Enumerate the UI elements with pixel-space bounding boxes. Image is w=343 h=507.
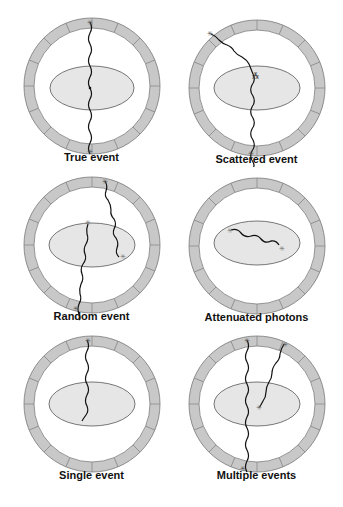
- detection-spark-icon: ✳: [102, 178, 108, 185]
- annihilation-point: [89, 87, 92, 90]
- annihilation-spark-icon: ✳: [120, 253, 126, 260]
- detector-ring-diagram: ✳: [6, 318, 177, 483]
- detector-ring-diagram: ⁂ ✳ ✳: [171, 2, 342, 167]
- truncated-caption: [10, 494, 333, 502]
- panel-scattered-event: ⁂ ✳ ✳ Scattered event: [171, 2, 342, 167]
- panel-random-event: ✳ ✳ ✳ ✳ Random event: [6, 159, 177, 324]
- annihilation-spark-icon: ✳: [85, 219, 91, 226]
- detection-spark-icon: ✳: [85, 337, 91, 344]
- panel-multiple-events: ✳ ✳ ✳ ✳ Multiple events: [171, 318, 342, 483]
- absorption-spark-icon: ✳: [227, 227, 233, 234]
- panel-true-event: ✳ ✳ True event: [6, 0, 177, 165]
- scatter-point-icon: ⁂: [252, 72, 259, 79]
- patient-object: [49, 382, 135, 426]
- patient-object: [49, 223, 135, 267]
- detection-spark-icon: ✳: [244, 337, 250, 344]
- absorption-spark-icon: ✳: [279, 245, 285, 252]
- detection-spark-icon: ✳: [87, 19, 93, 26]
- panel-single-event: ✳ Single event: [6, 318, 177, 483]
- panel-label: Single event: [6, 469, 177, 481]
- detector-ring-diagram: ✳ ✳ ✳ ✳: [6, 159, 177, 324]
- detector-ring-diagram: ✳ ✳: [6, 0, 177, 165]
- panel-attenuated-photons: ✳ ✳ Attenuated photons: [171, 160, 342, 325]
- detection-spark-icon: ✳: [282, 341, 288, 348]
- annihilation-spark-icon: ✳: [256, 404, 262, 411]
- pet-coincidence-events-figure: ✳ ✳ True event: [0, 0, 343, 507]
- detector-ring-diagram: ✳ ✳: [171, 160, 342, 325]
- panel-label: Multiple events: [171, 469, 342, 481]
- detector-ring-diagram: ✳ ✳ ✳ ✳: [171, 318, 342, 483]
- detection-spark-icon: ✳: [207, 30, 213, 37]
